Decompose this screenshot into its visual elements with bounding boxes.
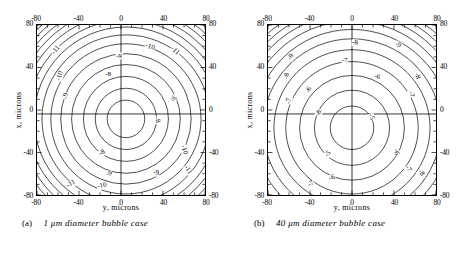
y-tick-label-left: -40 [24,149,33,157]
plot-frame-a: -11-10-9-9-8-10-11-6-8-8-9-9-10-11-11-10 [36,24,206,196]
y-tick-label-right: 0 [209,106,213,114]
y-tick-label-right: 40 [209,63,216,71]
plot-frame-b: -9-8-7-6-8-8-7-9-6-8-7-5-5-6-7-8-6-7 [267,24,437,196]
contour-label: -9 [115,53,122,60]
y-tick-label-right: -80 [440,192,449,200]
y-tick-label-right: -40 [440,149,449,157]
x-tick-label-top: 0 [350,15,354,23]
plot-area-a: -11-10-9-9-8-10-11-6-8-8-9-9-10-11-11-10… [36,24,206,196]
plot-area-b: -9-8-7-6-8-8-7-9-6-8-7-5-5-6-7-8-6-7 -80… [267,24,437,196]
x-tick-label-bottom: 40 [160,199,167,207]
figure-two-contour-panels: -11-10-9-9-8-10-11-6-8-8-9-9-10-11-11-10… [0,0,469,259]
x-tick-label-bottom: 40 [391,199,398,207]
caption-a: (a) 1 μm diameter bubble case [22,216,232,230]
x-axis-title-b: y, microns [334,203,370,212]
caption-b: (b) 40 μm diameter bubble case [254,216,469,230]
x-axis-title-a: y, microns [103,203,139,212]
y-tick-label-right: -40 [209,149,218,157]
y-tick-label-left: -80 [255,192,264,200]
y-tick-label-left: 80 [26,20,33,28]
y-tick-label-left: 40 [257,63,264,71]
y-tick-label-left: 0 [29,106,33,114]
contour-label: -8 [105,71,112,78]
y-tick-label-left: 40 [26,63,33,71]
x-tick-label-bottom: -40 [74,199,83,207]
x-tick-label-top: -40 [305,15,314,23]
contour-label: -7 [407,90,415,98]
panel-a: -11-10-9-9-8-10-11-6-8-8-9-9-10-11-11-10… [0,0,234,259]
caption-text-a: 1 μm diameter bubble case [44,218,149,228]
y-tick-label-left: 80 [257,20,264,28]
panel-b: -9-8-7-6-8-8-7-9-6-8-7-5-5-6-7-8-6-7 -80… [234,0,469,259]
y-tick-label-right: -80 [209,192,218,200]
x-tick-label-bottom: -40 [305,199,314,207]
caption-tag-b: (b) [254,218,265,228]
x-tick-label-top: -40 [74,15,83,23]
y-axis-title-b: x, microns [245,92,254,129]
y-axis-title-a: x, microns [14,92,23,129]
y-tick-label-right: 40 [440,63,447,71]
x-tick-label-top: 40 [160,15,167,23]
y-tick-label-left: -80 [24,192,33,200]
contour-label: -6 [391,148,399,156]
contour-label: -8 [412,71,421,80]
y-tick-label-left: -40 [255,149,264,157]
contour-label: -9 [62,92,70,100]
x-tick-label-top: 40 [391,15,398,23]
contour-label: -6 [327,173,336,182]
y-tick-label-right: 0 [440,106,444,114]
caption-text-b: 40 μm diameter bubble case [276,218,385,228]
contour-label: -8 [153,115,162,123]
contour-label: -8 [351,39,358,47]
caption-tag-a: (a) [22,218,32,228]
x-tick-label-bottom: -80 [262,199,271,207]
contour-label: -6 [169,94,177,102]
y-tick-label-left: 0 [260,106,264,114]
contour-label: -7 [341,57,348,64]
y-tick-label-right: 80 [440,20,447,28]
x-tick-label-top: 0 [119,15,123,23]
y-tick-label-right: 80 [209,20,216,28]
contour-label: -7 [285,98,293,106]
x-tick-label-bottom: -80 [31,199,40,207]
